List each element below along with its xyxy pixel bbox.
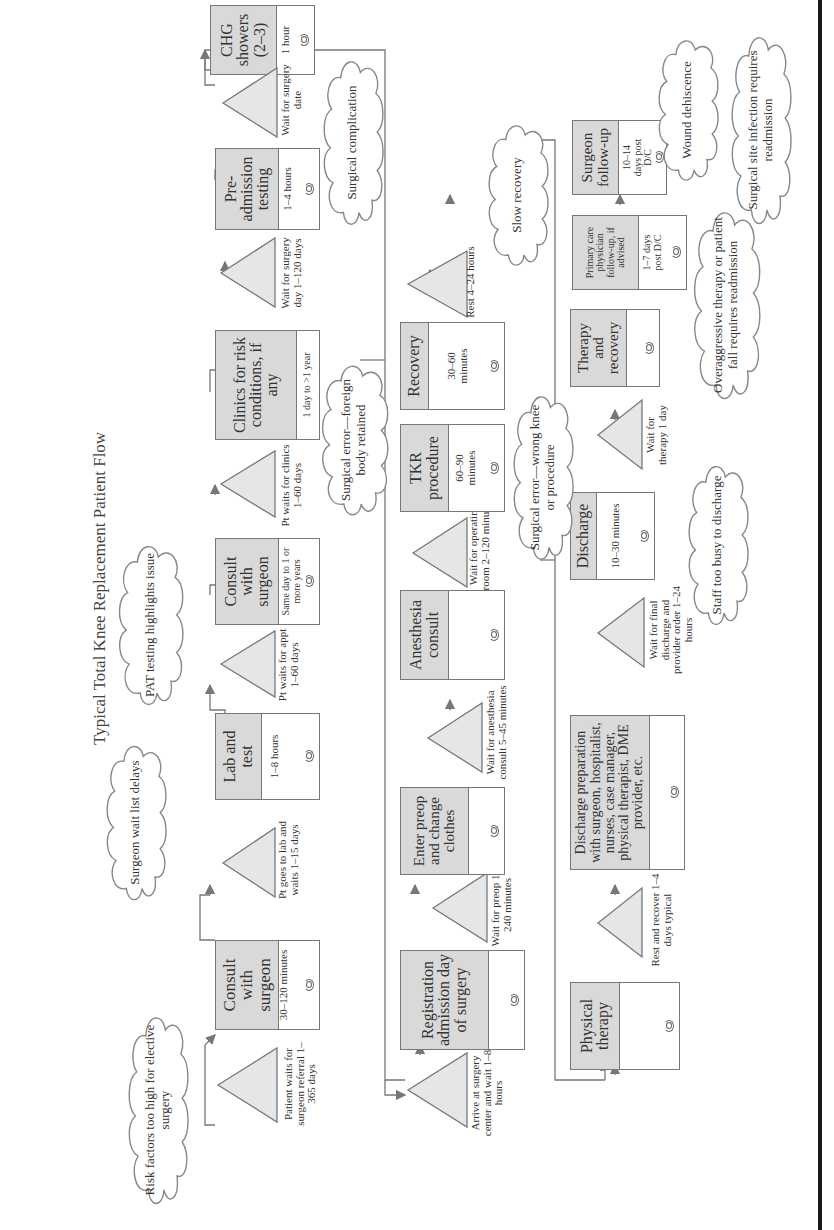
process-title: Surgeon follow-up (573, 121, 619, 194)
diagram-title: Typical Total Knee Replacement Patient F… (90, 432, 110, 745)
process-title: Discharge preparation with surgeon, hosp… (571, 716, 650, 869)
cycle-icon (304, 182, 315, 196)
process-title: CHG showers (2–3) (211, 6, 277, 74)
process-consult-surgeon-2: Consult with surgeon Same day to 1 or mo… (215, 538, 320, 625)
wait-label: Pt waits for appt 1–60 days (277, 625, 300, 705)
cycle-icon (304, 978, 315, 992)
process-duration: 1 day to >1 year (302, 352, 313, 417)
cycle-icon (669, 786, 680, 800)
wait-triangle (220, 65, 280, 140)
cycle-icon (644, 341, 655, 355)
wait-triangle (430, 870, 490, 945)
wait-triangle (218, 448, 278, 520)
process-duration: 30–60 minutes (446, 341, 469, 391)
cycle-icon (639, 529, 650, 543)
process-surgeon-follow-up: Surgeon follow-up 10–14 days post D/C (572, 120, 667, 195)
cycle-icon (489, 359, 500, 373)
cycle-icon (489, 461, 500, 475)
wait-label: Wait for therapy 1 day (645, 405, 668, 465)
issue-cloud: Surgical error—foreign body retained (318, 360, 390, 520)
wait-triangle (595, 885, 645, 960)
process-title: Pre-admission testing (216, 149, 279, 229)
wait-triangle (215, 1045, 280, 1125)
process-duration: 1–4 hours (282, 167, 294, 211)
wait-triangle (405, 1050, 470, 1130)
process-title: Clinics for risk conditions, if any (216, 331, 297, 439)
process-title: Therapy and recovery (571, 310, 627, 386)
wait-label: Pt waits for clinics 1–60 days (280, 443, 303, 528)
cycle-icon (489, 824, 500, 838)
wait-triangle (218, 235, 278, 310)
process-duration: 1–8 hours (269, 735, 281, 779)
process-duration: 10–30 minutes (610, 503, 622, 568)
process-pcp-follow-up: Primary care physician follow-up, if adv… (572, 215, 687, 290)
cycle-icon (299, 33, 310, 47)
process-therapy-and-recovery: Therapy and recovery (570, 309, 660, 387)
cycle-icon (489, 628, 500, 642)
cycle-icon (304, 575, 315, 589)
issue-cloud: Wound dehiscence (655, 35, 720, 185)
process-title: Lab and test (216, 714, 262, 799)
wait-triangle (220, 825, 278, 900)
issue-cloud: Surgeon wait list delays (103, 740, 168, 905)
process-title: Registration admission day of surgery (401, 951, 489, 1049)
wait-triangle (595, 595, 647, 670)
issue-cloud: Risk factors too high for elective surge… (125, 1010, 190, 1210)
cycle-icon (671, 246, 682, 260)
process-anesthesia-consult: Anesthesia consult (400, 590, 505, 680)
issue-cloud: Staff too busy to discharge (685, 460, 750, 630)
cycle-icon (304, 750, 315, 764)
process-duration: 1 hour (280, 26, 292, 54)
wait-label: Wait for surgery date (280, 60, 303, 140)
wait-triangle (410, 515, 470, 590)
process-title: TKR procedure (401, 425, 449, 511)
process-registration: Registration admission day of surgery (400, 950, 525, 1050)
process-tkr-procedure: TKR procedure 60–90 minutes (400, 424, 505, 512)
wait-triangle (425, 700, 485, 775)
process-physical-therapy: Physical therapy (570, 982, 680, 1070)
process-duration: 1–7 days post D/C (642, 233, 663, 273)
wait-label: Wait for anesthesia consult 5–45 minutes (485, 680, 508, 785)
process-title: Anesthesia consult (401, 591, 449, 679)
process-preadmission-testing: Pre-admission testing 1–4 hours (215, 148, 320, 230)
process-duration: 30–120 minutes (278, 950, 290, 1021)
wait-label: Patient waits for surgeon referral 1–365… (283, 1038, 318, 1130)
issue-cloud: Overaggressive therapy or patient fall r… (690, 205, 762, 405)
wait-label: Arrive at surgery center and wait 1–8 ho… (470, 1048, 505, 1138)
wait-triangle (405, 248, 470, 320)
wait-triangle (218, 628, 278, 700)
issue-cloud: Surgical error—wrong knee or procedure (510, 390, 575, 565)
process-recovery: Recovery 30–60 minutes (400, 322, 505, 410)
issue-cloud: Surgical complication (320, 55, 385, 230)
process-title: Primary care physician follow-up, if adv… (573, 216, 639, 289)
cycle-icon (664, 1019, 675, 1033)
flow-diagram: Typical Total Knee Replacement Patient F… (0, 0, 834, 1230)
process-title: Consult with surgeon (216, 539, 279, 624)
issue-cloud: PAT testing highlights issue (115, 540, 185, 710)
process-discharge: Discharge 10–30 minutes (570, 492, 655, 580)
issue-cloud: Slow recovery (485, 120, 550, 270)
process-title: Physical therapy (571, 983, 620, 1069)
process-discharge-preparation: Discharge preparation with surgeon, hosp… (570, 715, 685, 870)
wait-label: Rest and recover 1–4 days typical (650, 865, 673, 975)
wait-label: Wait for surgery day 1–120 days (280, 228, 303, 318)
process-duration: 60–90 minutes (454, 443, 477, 493)
process-duration: Same day to 1 or more years (281, 539, 302, 624)
process-title: Enter preop and change clothes (401, 788, 469, 874)
wait-triangle (595, 397, 645, 472)
process-title: Consult with surgeon (216, 941, 279, 1029)
process-lab-and-test: Lab and test 1–8 hours (215, 713, 320, 800)
process-consult-surgeon-1: Consult with surgeon 30–120 minutes (215, 940, 320, 1030)
process-duration: 10–14 days post D/C (622, 135, 654, 180)
issue-cloud: Surgical site infection requires readmis… (728, 30, 793, 230)
process-enter-preop: Enter preop and change clothes (400, 787, 505, 875)
wait-label: Pt goes to lab and waits 1–15 days (277, 815, 300, 905)
wait-label: Rest 4–24 hours (465, 246, 477, 318)
process-title: Recovery (401, 323, 429, 409)
process-clinics: Clinics for risk conditions, if any 1 da… (215, 330, 320, 440)
cycle-icon (509, 993, 520, 1007)
